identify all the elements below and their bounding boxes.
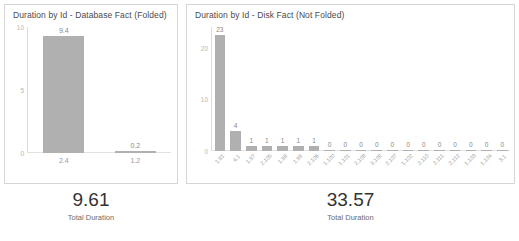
bar-value-label: 0 <box>438 142 442 149</box>
kpi-value-disk-duration: 33.57 <box>186 190 515 210</box>
x-tick-label: 1.103 <box>463 152 477 166</box>
x-tick-label: 1.101 <box>337 152 351 166</box>
y-tick-label: 5 <box>20 87 24 94</box>
bar-item[interactable]: 0 <box>369 27 385 151</box>
kpi-label-disk-duration: Total Duration <box>186 213 515 222</box>
x-tick-label: 1.99 <box>292 153 304 165</box>
bar-item[interactable]: 0 <box>400 27 416 151</box>
bar-value-label: 0 <box>375 142 379 149</box>
bar-item[interactable]: 0 <box>432 27 448 151</box>
chart-panel-disk-fact[interactable]: Duration by Id - Disk Fact (Not Folded) … <box>186 4 515 184</box>
bar-item[interactable]: 9.4 <box>28 27 100 153</box>
bar-rect[interactable] <box>262 146 273 151</box>
bar-item[interactable]: 0 <box>447 27 463 151</box>
bar-value-label: 1 <box>265 138 269 145</box>
bar-item[interactable]: 1 <box>306 27 322 151</box>
chart-panel-database-fact[interactable]: Duration by Id - Database Fact (Folded) … <box>4 4 178 184</box>
bar-value-label: 0 <box>406 142 410 149</box>
bar-item[interactable]: 23 <box>212 27 228 151</box>
bar-rect[interactable] <box>356 150 367 151</box>
bar-rect[interactable] <box>403 150 414 151</box>
bar-rect[interactable] <box>497 150 508 151</box>
bar-item[interactable]: 0 <box>494 27 510 151</box>
bar-rect[interactable] <box>246 146 257 151</box>
bar-value-label: 1 <box>296 138 300 145</box>
x-tick-label: 1.100 <box>322 152 336 166</box>
bar-rect[interactable] <box>466 150 477 151</box>
y-tick-label: 10 <box>201 96 208 103</box>
plot-area-disk-fact: 23411111000000000000 1.814.11.972.1051.9… <box>211 27 510 151</box>
x-tick-label: 1.104 <box>479 152 493 166</box>
bar-item[interactable]: 0.2 <box>100 27 172 153</box>
bar-item[interactable]: 0 <box>338 27 354 151</box>
y-tick-label: 20 <box>201 44 208 51</box>
x-tick-label: 3.109 <box>369 152 383 166</box>
plot-area-database-fact: 9.40.2 2.41.2 1050 <box>27 27 171 153</box>
bar-rect[interactable] <box>481 150 492 151</box>
y-tick-label: 0 <box>204 148 208 155</box>
chart-title-disk-fact: Duration by Id - Disk Fact (Not Folded) <box>195 10 344 20</box>
bar-value-label: 1 <box>249 138 253 145</box>
bar-item[interactable]: 1 <box>243 27 259 151</box>
kpi-card-database-duration: 9.61 Total Duration <box>4 190 178 222</box>
bar-item[interactable]: 0 <box>322 27 338 151</box>
bar-item[interactable]: 0 <box>463 27 479 151</box>
bar-item[interactable]: 0 <box>353 27 369 151</box>
x-tick-label: 2.110 <box>416 152 430 166</box>
x-tick-label: 1.97 <box>245 153 257 165</box>
x-tick-label: 3.1 <box>498 153 508 163</box>
bar-value-label: 1 <box>281 138 285 145</box>
chart-title-database-fact: Duration by Id - Database Fact (Folded) <box>13 10 167 20</box>
x-tick-label: 2.106 <box>306 152 320 166</box>
bar-value-label: 23 <box>216 27 223 34</box>
bar-rect[interactable] <box>387 150 398 151</box>
bar-rect[interactable] <box>450 150 461 151</box>
bar-item[interactable]: 0 <box>416 27 432 151</box>
bar-item[interactable]: 4 <box>228 27 244 151</box>
bar-item[interactable]: 1 <box>275 27 291 151</box>
bar-rect[interactable] <box>293 146 304 151</box>
y-tick-label: 10 <box>17 24 24 31</box>
bar-value-label: 0 <box>391 142 395 149</box>
bar-item[interactable]: 0 <box>479 27 495 151</box>
bar-value-label: 0 <box>328 142 332 149</box>
bar-rect[interactable] <box>340 150 351 151</box>
x-tick-label: 1.2 <box>130 157 140 164</box>
bar-series-database-fact: 9.40.2 <box>28 27 171 153</box>
x-tick-label: 2.111 <box>432 153 445 166</box>
x-tick-label: 2.108 <box>353 152 367 166</box>
kpi-label-database-duration: Total Duration <box>4 213 178 222</box>
bar-rect[interactable] <box>309 146 320 151</box>
bar-rect[interactable] <box>215 35 226 151</box>
bar-rect[interactable] <box>230 131 241 152</box>
x-tick-label: 2.112 <box>447 152 461 166</box>
bar-value-label: 4 <box>234 123 238 130</box>
bar-item[interactable]: 1 <box>259 27 275 151</box>
bar-series-disk-fact: 23411111000000000000 <box>212 27 510 151</box>
x-tick-label: 1.81 <box>214 153 226 165</box>
bar-rect[interactable] <box>418 150 429 151</box>
bar-rect[interactable] <box>115 151 156 154</box>
x-tick-label: 4.1 <box>231 153 241 163</box>
bar-rect[interactable] <box>43 36 84 154</box>
bar-rect[interactable] <box>324 150 335 151</box>
kpi-card-disk-duration: 33.57 Total Duration <box>186 190 515 222</box>
bar-item[interactable]: 1 <box>290 27 306 151</box>
bar-value-label: 0 <box>359 142 363 149</box>
y-tick-label: 0 <box>20 150 24 157</box>
bar-value-label: 1 <box>312 138 316 145</box>
x-tick-label: 1.98 <box>276 153 288 165</box>
bar-value-label: 0 <box>485 142 489 149</box>
bar-value-label: 0 <box>500 142 504 149</box>
bar-item[interactable]: 0 <box>385 27 401 151</box>
bar-value-label: 0 <box>469 142 473 149</box>
x-tick-label: 1.102 <box>400 152 414 166</box>
x-tick-label: 2.105 <box>259 152 273 166</box>
bar-value-label: 0.2 <box>130 142 140 149</box>
report-page: Duration by Id - Database Fact (Folded) … <box>0 0 519 241</box>
bar-value-label: 0 <box>453 142 457 149</box>
bar-rect[interactable] <box>277 146 288 151</box>
bar-rect[interactable] <box>371 150 382 151</box>
bar-rect[interactable] <box>434 150 445 151</box>
bar-value-label: 9.4 <box>59 27 69 34</box>
